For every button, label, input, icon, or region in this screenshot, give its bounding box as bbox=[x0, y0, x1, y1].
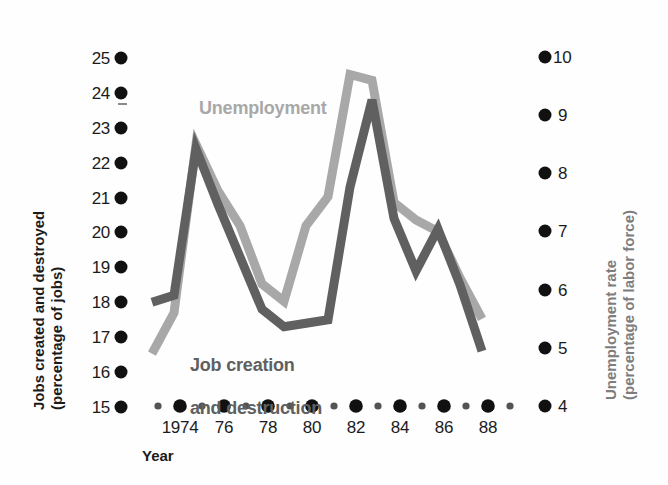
x-axis-tick-label: 82 bbox=[336, 419, 376, 436]
right-axis-tick-label: 7 bbox=[558, 223, 567, 240]
right-axis-tick-label: 10 bbox=[553, 49, 571, 66]
left-axis-tick-label: 19 bbox=[60, 259, 110, 276]
x-axis-tick-label: 84 bbox=[380, 419, 420, 436]
left-axis-tick-label: 16 bbox=[60, 364, 110, 381]
left-axis-tick-label: 21 bbox=[60, 190, 110, 207]
right-axis-title: Unemployment rate (percentage of labor f… bbox=[602, 210, 637, 400]
left-axis-tick-label: 18 bbox=[60, 294, 110, 311]
series-label-job-creation-and-destruction: Job creation and destruction bbox=[190, 334, 322, 440]
right-axis-tick-label: 9 bbox=[558, 107, 567, 124]
left-axis-title: Jobs created and destroyed (percentage o… bbox=[30, 211, 65, 410]
left-axis-tick-label: 25 bbox=[60, 50, 110, 67]
series-label-jobs-line1: Job creation bbox=[190, 355, 322, 376]
left-axis-title-line2: (percentage of jobs) bbox=[48, 211, 66, 410]
left-axis-tick-label: 15 bbox=[60, 399, 110, 416]
right-axis-title-line1: Unemployment rate bbox=[602, 210, 620, 400]
right-axis-tick-dots bbox=[539, 51, 552, 413]
chart-figure: 25 24 23 22 21 20 19 18 17 16 15 10 9 8 … bbox=[0, 0, 668, 485]
x-axis-tick-label: 88 bbox=[468, 419, 508, 436]
right-axis-tick-label: 4 bbox=[558, 398, 567, 415]
left-axis-tick-label: 24 bbox=[60, 85, 110, 102]
left-axis-tick-label: 22 bbox=[60, 155, 110, 172]
right-axis-tick-label: 6 bbox=[558, 282, 567, 299]
x-axis-title: Year bbox=[142, 447, 174, 464]
right-axis-title-line2: (percentage of labor force) bbox=[620, 210, 638, 400]
x-axis-tick-label: 86 bbox=[424, 419, 464, 436]
series-label-unemployment: Unemployment bbox=[199, 98, 327, 119]
left-axis-title-line1: Jobs created and destroyed bbox=[30, 211, 48, 410]
right-axis-tick-label: 8 bbox=[558, 165, 567, 182]
right-axis-tick-label: 5 bbox=[558, 340, 567, 357]
left-axis-tick-label: 20 bbox=[60, 224, 110, 241]
series-label-jobs-line2: and destruction bbox=[190, 398, 322, 419]
left-axis-tick-label: 17 bbox=[60, 329, 110, 346]
left-axis-tick-label: 23 bbox=[60, 120, 110, 137]
left-axis-tick-dots bbox=[115, 52, 128, 414]
